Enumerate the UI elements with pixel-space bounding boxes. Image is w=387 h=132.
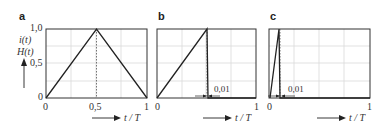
a-x-tick-05: 0,5 [89,101,102,112]
panel-b-plot [157,29,256,98]
b-x-tick-0: 0 [155,101,160,112]
y-tick-05: 0,5 [30,57,43,68]
y-label-h: H(t) [17,46,34,57]
y-tick-1: 1,0 [30,22,43,33]
b-annotation: 0,01 [214,84,230,94]
panel-c-plot [268,29,370,98]
chart-canvas [0,0,387,132]
a-x-tick-1: 1 [144,101,149,112]
a-x-tick-0: 0 [43,101,48,112]
c-x-label: t / T [349,112,365,123]
y-label-i: i(t) [19,34,31,45]
panel-a-plot [46,29,147,98]
c-annotation: 0,01 [288,84,304,94]
c-x-tick-0: 0 [267,101,272,112]
c-x-tick-1: 1 [367,101,372,112]
a-x-label: t / T [124,112,140,123]
b-x-tick-1: 1 [254,101,259,112]
b-x-label: t / T [235,112,251,123]
